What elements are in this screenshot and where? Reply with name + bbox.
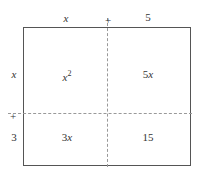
side-label-plus: + [8,110,18,122]
cell-5x: 5x [133,68,163,80]
cell-15: 15 [133,131,163,143]
horizontal-divider [8,113,192,114]
side-label-3: 3 [8,131,20,143]
cell-3x: 3x [52,131,82,143]
cell-x-squared: x2 [52,68,82,83]
side-label-x: x [8,68,20,80]
cell-x-squared-exponent: 2 [67,69,71,78]
top-label-x: x [60,12,72,24]
vertical-divider [107,18,108,167]
top-label-plus: + [103,14,113,26]
top-label-5: 5 [142,11,154,23]
